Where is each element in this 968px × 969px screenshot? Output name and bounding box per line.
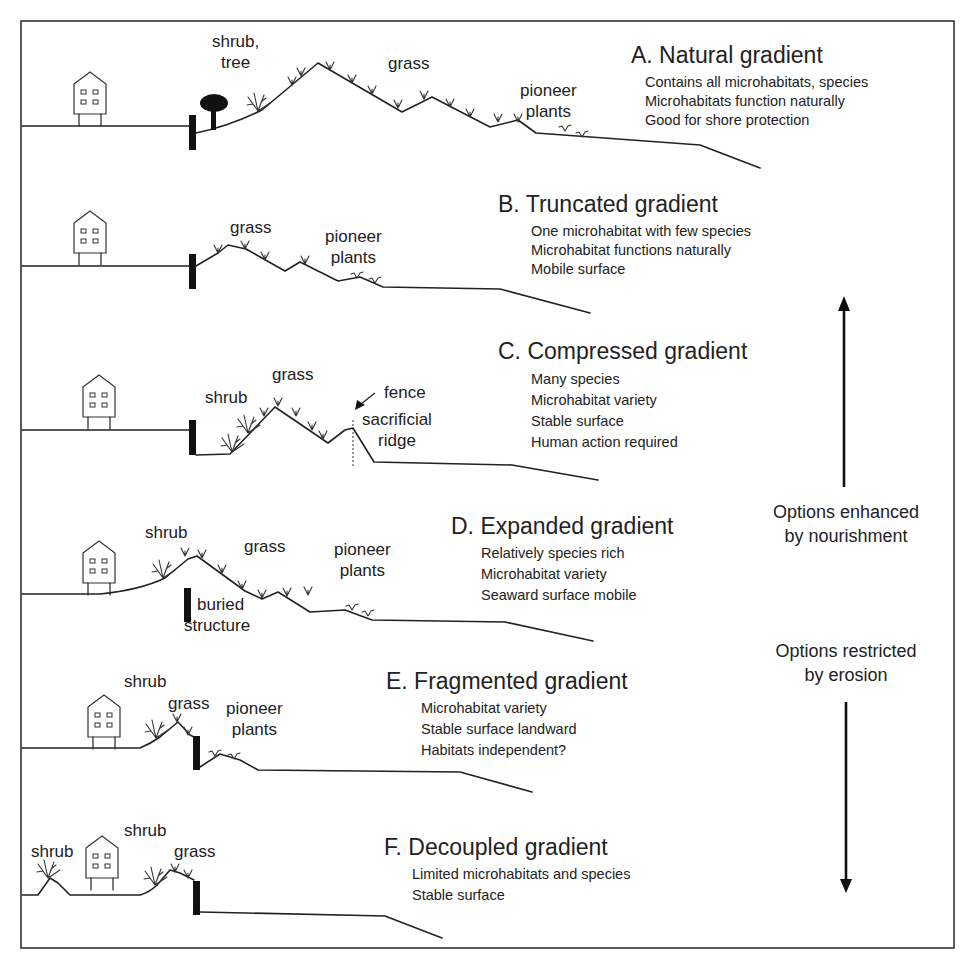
label-sacrificial-ridge: sacrificial ridge bbox=[362, 411, 432, 449]
description-line: Stable surface bbox=[531, 411, 747, 432]
house-icon bbox=[74, 72, 106, 126]
fence-pointer-arrow-icon bbox=[355, 393, 375, 410]
label-line: sacrificial bbox=[362, 411, 432, 428]
panel-description: Microhabitat variety Stable surface land… bbox=[386, 698, 628, 761]
description-line: Human action required bbox=[531, 432, 747, 453]
label-shrub: shrub bbox=[145, 524, 188, 541]
description-line: Microhabitat variety bbox=[481, 564, 674, 585]
description-line: Microhabitat functions naturally bbox=[531, 241, 751, 260]
label-line: structure bbox=[184, 617, 250, 634]
seawall-icon bbox=[189, 115, 196, 150]
label-line: ridge bbox=[362, 432, 432, 449]
label-pioneer-plants: pioneer plants bbox=[334, 541, 391, 579]
label-pioneer-plants: pioneer plants bbox=[325, 228, 382, 266]
description-line: Microhabitat variety bbox=[531, 390, 747, 411]
label-pioneer-plants: pioneer plants bbox=[226, 700, 283, 738]
panel-description: Relatively species rich Microhabitat var… bbox=[451, 543, 674, 606]
label-line: by erosion bbox=[763, 663, 929, 687]
label-line: Options enhanced bbox=[763, 500, 929, 524]
description-line: Relatively species rich bbox=[481, 543, 674, 564]
panel-f-heading: F. Decoupled gradient Limited microhabit… bbox=[384, 836, 630, 906]
label-line: plants bbox=[325, 249, 382, 266]
description-line: Contains all microhabitats, species bbox=[645, 73, 868, 92]
label-grass: grass bbox=[174, 843, 216, 860]
panel-description: Limited microhabitats and species Stable… bbox=[384, 864, 630, 906]
description-line: Stable surface bbox=[412, 885, 630, 906]
label-line: plants bbox=[520, 103, 577, 120]
profile-f bbox=[22, 836, 442, 938]
description-line: Microhabitats function naturally bbox=[645, 92, 868, 111]
house-icon bbox=[83, 375, 115, 429]
label-grass: grass bbox=[272, 366, 314, 383]
label-line: plants bbox=[334, 562, 391, 579]
label-shrub: shrub bbox=[124, 822, 167, 839]
description-line: Good for shore protection bbox=[645, 111, 868, 130]
label-grass: grass bbox=[168, 695, 210, 712]
seawall-icon bbox=[189, 420, 196, 455]
seawall-icon bbox=[189, 254, 196, 289]
figure: shrub, tree grass pioneer plants grass p… bbox=[0, 0, 968, 969]
house-icon bbox=[88, 695, 120, 749]
description-line: Limited microhabitats and species bbox=[412, 864, 630, 885]
description-line: Mobile surface bbox=[531, 260, 751, 279]
description-line: Habitats independent? bbox=[421, 740, 628, 761]
label-line: shrub, bbox=[212, 33, 259, 50]
arrow-down-icon bbox=[840, 702, 852, 893]
options-restricted-label: Options restricted by erosion bbox=[763, 639, 929, 687]
options-enhanced-label: Options enhanced by nourishment bbox=[763, 500, 929, 548]
description-line: Microhabitat variety bbox=[421, 698, 628, 719]
panel-title: D. Expanded gradient bbox=[451, 515, 674, 538]
panel-description: One microhabitat with few species Microh… bbox=[498, 222, 751, 279]
description-line: One microhabitat with few species bbox=[531, 222, 751, 241]
panel-title: E. Fragmented gradient bbox=[386, 670, 628, 693]
label-shrub: shrub bbox=[124, 673, 167, 690]
label-grass: grass bbox=[388, 55, 430, 72]
description-line: Seaward surface mobile bbox=[481, 585, 674, 606]
frame-border bbox=[21, 21, 954, 948]
panel-title: A. Natural gradient bbox=[631, 44, 868, 67]
label-fence: fence bbox=[384, 384, 426, 401]
label-shrub-left: shrub bbox=[31, 843, 74, 860]
description-line: Many species bbox=[531, 369, 747, 390]
label-grass: grass bbox=[230, 219, 272, 236]
label-line: pioneer bbox=[325, 228, 382, 245]
panel-description: Contains all microhabitats, species Micr… bbox=[631, 73, 868, 130]
label-grass: grass bbox=[244, 538, 286, 555]
panel-e-heading: E. Fragmented gradient Microhabitat vari… bbox=[386, 670, 628, 761]
label-buried-structure: buried structure bbox=[192, 596, 250, 634]
label-shrub-tree: shrub, tree bbox=[212, 33, 259, 71]
seawall-icon bbox=[193, 736, 200, 770]
panel-c-heading: C. Compressed gradient Many species Micr… bbox=[498, 340, 747, 453]
house-icon bbox=[74, 211, 106, 265]
panel-title: B. Truncated gradient bbox=[498, 193, 751, 216]
panel-title: F. Decoupled gradient bbox=[384, 836, 630, 859]
panel-b-heading: B. Truncated gradient One microhabitat w… bbox=[498, 193, 751, 279]
label-shrub: shrub bbox=[205, 389, 248, 406]
panel-a-heading: A. Natural gradient Contains all microha… bbox=[631, 44, 868, 130]
label-line: plants bbox=[226, 721, 283, 738]
label-pioneer-plants: pioneer plants bbox=[520, 82, 577, 120]
house-icon bbox=[86, 836, 118, 890]
arrow-up-icon bbox=[838, 296, 850, 487]
panel-title: C. Compressed gradient bbox=[498, 340, 747, 363]
house-icon bbox=[83, 541, 115, 595]
tree-icon bbox=[200, 94, 228, 130]
label-line: by nourishment bbox=[763, 524, 929, 548]
label-line: pioneer bbox=[334, 541, 391, 558]
description-line: Stable surface landward bbox=[421, 719, 628, 740]
label-line: pioneer bbox=[226, 700, 283, 717]
label-line: tree bbox=[212, 54, 259, 71]
seawall-icon bbox=[193, 881, 200, 915]
label-line: buried bbox=[192, 596, 250, 613]
label-line: pioneer bbox=[520, 82, 577, 99]
panel-d-heading: D. Expanded gradient Relatively species … bbox=[451, 515, 674, 606]
label-line: Options restricted bbox=[763, 639, 929, 663]
panel-description: Many species Microhabitat variety Stable… bbox=[498, 369, 747, 453]
